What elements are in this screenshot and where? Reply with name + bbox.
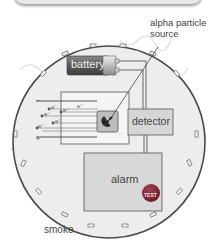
label-minus: − <box>36 95 40 106</box>
label-battery: battery <box>71 59 105 70</box>
label-electron-5: e⁻ <box>55 116 61 127</box>
label-alpha-line1: alpha particle <box>150 17 207 28</box>
label-electron-6: e⁻ <box>38 121 44 132</box>
label-electron-4: e⁻ <box>44 109 50 120</box>
label-electron-1: e⁻ <box>51 102 57 113</box>
label-detector: detector <box>132 116 170 127</box>
label-smoke: smoke <box>44 224 73 235</box>
label-alpha-line2: source <box>150 28 207 39</box>
label-alarm: alarm <box>111 174 139 185</box>
label-alpha-source: alpha particle source <box>150 17 207 39</box>
label-electron-3: e⁻ <box>77 101 83 112</box>
label-electron-2: e⁻ <box>63 105 69 116</box>
label-test: TEST <box>144 190 157 201</box>
label-plus: + <box>36 133 40 144</box>
